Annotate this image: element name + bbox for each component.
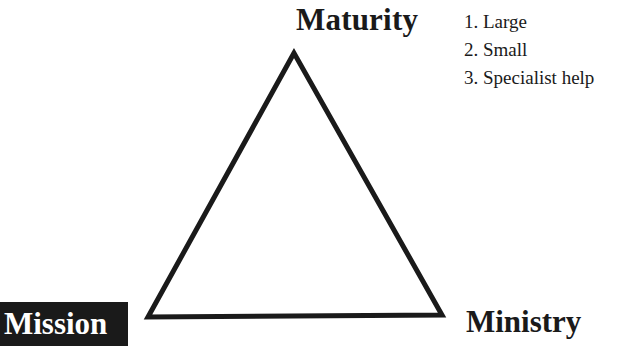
vertex-label-ministry: Ministry — [466, 304, 581, 340]
vertex-label-mission: Mission — [0, 302, 128, 346]
vertex-label-maturity: Maturity — [296, 2, 418, 38]
maturity-list: 1. Large 2. Small 3. Specialist help — [464, 8, 594, 92]
list-item: 1. Large — [464, 8, 594, 36]
list-item: 3. Specialist help — [464, 64, 594, 92]
list-item: 2. Small — [464, 36, 594, 64]
